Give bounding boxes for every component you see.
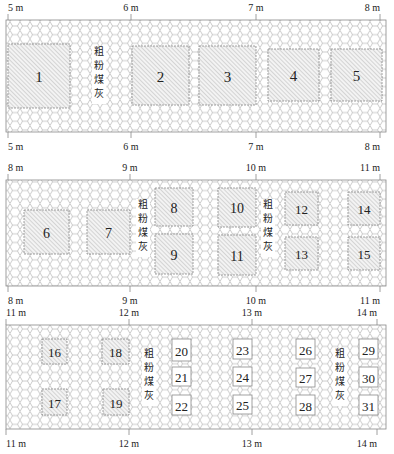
block-number: 14 bbox=[358, 202, 372, 217]
label-char: 粗 bbox=[94, 46, 104, 57]
coarse-fly-ash-label: 粗粉煤灰 bbox=[142, 348, 156, 406]
block-number: 15 bbox=[358, 247, 371, 262]
test-block-13: 13 bbox=[285, 237, 318, 270]
label-char: 煤 bbox=[138, 226, 148, 238]
block-number: 20 bbox=[175, 344, 188, 359]
label-char: 粗 bbox=[335, 348, 345, 359]
block-number: 6 bbox=[43, 226, 50, 241]
coarse-fly-ash-label: 粗粉煤灰 bbox=[92, 46, 106, 104]
test-block-17: 17 bbox=[42, 389, 67, 415]
test-block-16: 16 bbox=[42, 339, 67, 364]
test-block-27: 27 bbox=[296, 368, 315, 387]
test-block-8: 8 bbox=[155, 188, 193, 226]
test-block-30: 30 bbox=[359, 367, 378, 387]
test-block-5: 5 bbox=[331, 49, 382, 101]
block-number: 13 bbox=[295, 247, 308, 262]
label-char: 粗 bbox=[144, 348, 154, 359]
bottom-tick-label: 8 m bbox=[8, 295, 24, 306]
block-number: 30 bbox=[362, 371, 375, 386]
label-char: 粉 bbox=[263, 212, 273, 224]
test-block-18: 18 bbox=[102, 339, 129, 364]
block-number: 17 bbox=[48, 396, 62, 411]
block-number: 1 bbox=[35, 69, 43, 85]
test-block-15: 15 bbox=[348, 237, 380, 270]
band-2: 8 m9 m10 m11 m8 m9 m10 m11 m678910111213… bbox=[6, 162, 386, 306]
top-tick-label: 5 m bbox=[8, 2, 24, 13]
bottom-tick-label: 10 m bbox=[246, 295, 267, 306]
test-block-2: 2 bbox=[132, 46, 189, 105]
top-tick-label: 10 m bbox=[246, 162, 267, 173]
bottom-tick-label: 6 m bbox=[123, 141, 139, 152]
block-number: 9 bbox=[171, 248, 178, 263]
test-block-20: 20 bbox=[172, 339, 191, 361]
label-char: 粗 bbox=[138, 199, 148, 210]
test-block-21: 21 bbox=[172, 367, 191, 386]
block-number: 3 bbox=[224, 69, 232, 85]
block-number: 11 bbox=[230, 249, 243, 264]
block-number: 26 bbox=[299, 343, 313, 358]
block-number: 19 bbox=[110, 396, 123, 411]
test-block-3: 3 bbox=[199, 46, 256, 105]
label-char: 灰 bbox=[138, 240, 148, 252]
label-char: 灰 bbox=[335, 389, 345, 401]
test-block-12: 12 bbox=[285, 192, 318, 225]
test-block-29: 29 bbox=[359, 339, 378, 359]
label-char: 粉 bbox=[138, 212, 148, 224]
label-char: 粉 bbox=[335, 361, 345, 373]
test-block-6: 6 bbox=[24, 210, 69, 254]
label-char: 煤 bbox=[263, 226, 273, 238]
block-number: 23 bbox=[236, 343, 249, 358]
test-block-22: 22 bbox=[172, 395, 191, 415]
bottom-tick-label: 7 m bbox=[248, 141, 264, 152]
top-tick-label: 11 m bbox=[6, 307, 26, 318]
coarse-fly-ash-label: 粗粉煤灰 bbox=[261, 199, 275, 257]
coarse-fly-ash-label: 粗粉煤灰 bbox=[333, 348, 347, 406]
block-number: 5 bbox=[353, 68, 361, 84]
top-tick-label: 14 m bbox=[357, 307, 378, 318]
block-number: 12 bbox=[295, 202, 308, 217]
label-char: 粉 bbox=[144, 361, 154, 373]
top-tick-label: 8 m bbox=[8, 162, 24, 173]
top-tick-label: 11 m bbox=[360, 162, 380, 173]
test-block-28: 28 bbox=[296, 395, 315, 415]
bottom-tick-label: 14 m bbox=[357, 438, 378, 449]
block-number: 31 bbox=[362, 399, 375, 414]
bottom-tick-label: 9 m bbox=[122, 295, 138, 306]
bottom-tick-label: 11 m bbox=[360, 295, 380, 306]
test-block-14: 14 bbox=[348, 192, 380, 225]
block-number: 29 bbox=[362, 343, 375, 358]
block-number: 18 bbox=[109, 345, 122, 360]
test-block-10: 10 bbox=[218, 188, 256, 227]
label-char: 粗 bbox=[263, 199, 273, 210]
top-tick-label: 12 m bbox=[119, 307, 140, 318]
label-char: 煤 bbox=[94, 73, 104, 85]
block-number: 16 bbox=[48, 345, 62, 360]
top-tick-label: 13 m bbox=[242, 307, 263, 318]
block-number: 27 bbox=[299, 371, 313, 386]
block-number: 10 bbox=[230, 201, 244, 216]
bottom-tick-label: 13 m bbox=[242, 438, 263, 449]
label-char: 粉 bbox=[94, 59, 104, 71]
coarse-fly-ash-label: 粗粉煤灰 bbox=[136, 199, 150, 257]
test-block-11: 11 bbox=[218, 235, 256, 275]
label-char: 灰 bbox=[94, 87, 104, 99]
top-tick-label: 8 m bbox=[365, 2, 381, 13]
test-block-26: 26 bbox=[296, 339, 315, 359]
bottom-tick-label: 12 m bbox=[119, 438, 140, 449]
top-tick-label: 6 m bbox=[123, 2, 139, 13]
test-block-31: 31 bbox=[359, 395, 378, 415]
block-number: 2 bbox=[157, 69, 165, 85]
block-number: 24 bbox=[236, 370, 250, 385]
test-block-7: 7 bbox=[87, 210, 130, 254]
band-1: 5 m6 m7 m8 m5 m6 m7 m8 m12345粗粉煤灰 bbox=[6, 2, 386, 152]
bottom-tick-label: 11 m bbox=[6, 438, 26, 449]
test-block-4: 4 bbox=[268, 49, 319, 101]
block-number: 8 bbox=[171, 201, 178, 216]
band-3: 11 m12 m13 m14 m11 m12 m13 m14 m16171819… bbox=[6, 307, 386, 449]
block-number: 25 bbox=[236, 398, 249, 413]
bottom-tick-label: 8 m bbox=[365, 141, 381, 152]
block-number: 22 bbox=[175, 399, 188, 414]
top-tick-label: 9 m bbox=[122, 162, 138, 173]
test-block-24: 24 bbox=[233, 367, 252, 386]
label-char: 煤 bbox=[335, 375, 345, 387]
